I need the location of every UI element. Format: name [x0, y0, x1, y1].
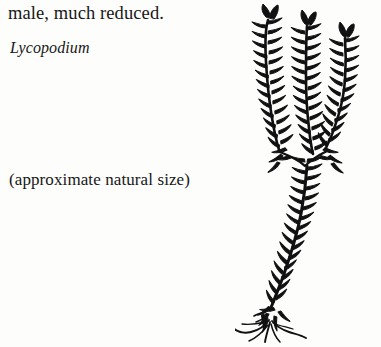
- strobilus-right: [315, 22, 359, 148]
- strobilus-left: [252, 4, 294, 150]
- main-stem: [262, 162, 322, 310]
- roots: [235, 320, 306, 342]
- strobilus-middle: [291, 10, 328, 154]
- lycopodium-illustration: [235, 0, 381, 347]
- caption-line-size: (approximate natural size): [9, 169, 190, 191]
- caption-line-male: male, much reduced.: [8, 2, 164, 24]
- figure-page: male, much reduced. Lycopodium (approxim…: [0, 0, 381, 347]
- caption-line-genus: Lycopodium: [10, 38, 90, 58]
